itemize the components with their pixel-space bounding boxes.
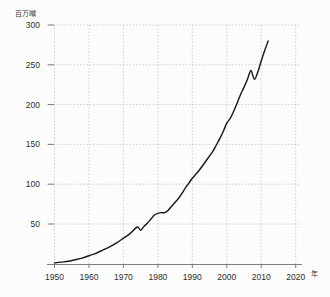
x-tick-label-1960: 1960	[72, 272, 106, 282]
chart-plot-area	[0, 0, 330, 297]
x-tick-label-2010: 2010	[244, 272, 278, 282]
y-tick-label-200: 200	[14, 100, 40, 110]
x-tick-label-1970: 1970	[106, 272, 140, 282]
y-tick-label-100: 100	[14, 179, 40, 189]
x-tick-label-1980: 1980	[141, 272, 175, 282]
data-series-line	[55, 41, 269, 263]
y-tick-label-50: 50	[14, 219, 40, 229]
y-tick-label-250: 250	[14, 60, 40, 70]
y-axis-unit-label: 百万噸	[15, 8, 36, 18]
y-tick-label-300: 300	[14, 20, 40, 30]
y-axis-tick-marks	[48, 25, 54, 224]
y-tick-label-150: 150	[14, 139, 40, 149]
x-tick-label-1950: 1950	[38, 272, 72, 282]
horizontal-gridlines	[47, 25, 300, 224]
chart-figure: 百万噸 年 300 250 200 150 100 50 1950 1960 1…	[0, 0, 330, 297]
x-tick-label-1990: 1990	[175, 272, 209, 282]
x-tick-label-2000: 2000	[210, 272, 244, 282]
x-tick-label-2020: 2020	[279, 272, 313, 282]
